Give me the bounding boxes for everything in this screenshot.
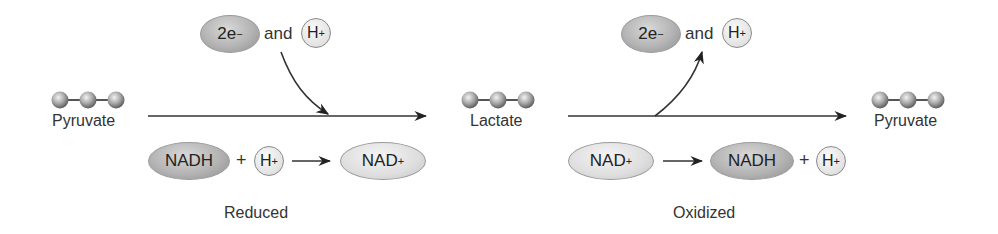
right-electron-label: 2e xyxy=(638,24,657,44)
right-nad-plus-oval: NAD+ xyxy=(568,142,654,180)
lactate-molecule-icon xyxy=(462,92,535,109)
right-nad-label: NAD xyxy=(590,151,626,171)
right-and-connector: and xyxy=(685,24,713,44)
left-electron-oval: 2e− xyxy=(200,15,260,53)
left-top-proton-label: H xyxy=(307,24,319,42)
left-top-proton-circle: H+ xyxy=(301,18,331,48)
left-nad-label: NAD xyxy=(362,151,398,171)
left-electron-label: 2e xyxy=(217,24,236,44)
reduced-caption: Reduced xyxy=(224,204,288,222)
left-and-connector: and xyxy=(264,24,292,44)
left-nadh-label: NADH xyxy=(165,151,213,171)
pyruvate-molecule-right-icon xyxy=(872,92,945,109)
left-nadh-oval: NADH xyxy=(148,142,230,180)
right-electron-oval: 2e− xyxy=(621,15,681,53)
right-bottom-proton-circle: H+ xyxy=(816,146,846,176)
right-bottom-proton-label: H xyxy=(822,152,834,170)
pyruvate-label-right: Pyruvate xyxy=(874,112,937,130)
lactate-label: Lactate xyxy=(470,112,522,130)
right-nadh-oval: NADH xyxy=(710,142,794,180)
left-nad-plus-oval: NAD+ xyxy=(340,142,426,180)
right-plus-sign: + xyxy=(799,150,810,171)
pyruvate-label-left: Pyruvate xyxy=(52,112,115,130)
left-bottom-proton-circle: H+ xyxy=(254,146,284,176)
oxidized-caption: Oxidized xyxy=(673,204,735,222)
right-outgoing-electron-arrow-icon xyxy=(655,52,702,116)
pyruvate-molecule-left-icon xyxy=(52,92,125,109)
left-incoming-electron-arrow-icon xyxy=(281,52,328,114)
right-top-proton-label: H xyxy=(728,24,740,42)
left-bottom-proton-label: H xyxy=(260,152,272,170)
right-nadh-label: NADH xyxy=(728,151,776,171)
right-top-proton-circle: H+ xyxy=(722,18,752,48)
pyruvate-lactate-redox-diagram: Pyruvate Lactate Pyruvate 2e− and H+ NAD… xyxy=(0,0,998,234)
left-plus-sign: + xyxy=(236,150,247,171)
